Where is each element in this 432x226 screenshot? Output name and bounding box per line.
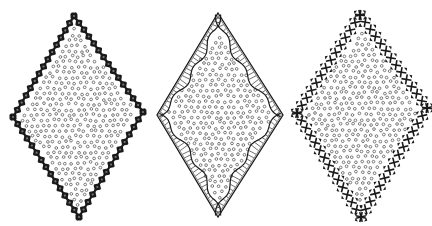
fill-dot (95, 163, 98, 166)
bead-highlight (34, 80, 36, 82)
bead-highlight (73, 209, 75, 211)
fill-dot (89, 173, 92, 176)
stitch-triangle (416, 132, 419, 136)
fill-dot (257, 94, 260, 97)
cross-stitch (417, 100, 427, 102)
fill-dot (96, 140, 99, 143)
fill-dot (360, 119, 363, 122)
fill-dot (195, 159, 198, 162)
fill-dot (34, 97, 37, 100)
hatch-mark (202, 43, 207, 46)
fill-dot (78, 109, 81, 112)
fill-dot (73, 198, 76, 201)
fill-dot (220, 74, 223, 77)
fill-dot (227, 73, 230, 76)
fill-dot (75, 156, 78, 159)
fill-dot (90, 108, 93, 111)
stitch-triangle (305, 106, 308, 110)
fill-dot (79, 123, 82, 126)
fill-dot (225, 57, 228, 60)
fill-dot (404, 128, 407, 131)
fill-dot (349, 76, 352, 79)
fill-dot (215, 52, 218, 55)
cross-stitch (365, 29, 375, 31)
fill-dot (96, 67, 99, 70)
fill-dot (177, 96, 180, 99)
fill-dot (90, 141, 93, 144)
fill-dot (366, 130, 369, 133)
fill-dot (208, 159, 211, 162)
fill-dot (242, 112, 245, 115)
stitch-triangle (397, 143, 400, 147)
fill-dot (217, 78, 220, 81)
fill-dot (32, 118, 35, 121)
fill-dot (257, 106, 260, 109)
fill-dot (204, 78, 207, 81)
fill-dot (49, 104, 52, 107)
fill-dot (87, 168, 90, 171)
fill-dot (180, 121, 183, 124)
fill-dot (73, 114, 76, 117)
fill-dot (308, 114, 311, 117)
fill-dot (328, 113, 331, 116)
fill-dot (230, 112, 233, 115)
fill-dot (187, 110, 190, 113)
fill-dot (211, 122, 214, 125)
fill-dot (221, 148, 224, 151)
fill-dot (23, 114, 26, 117)
fill-dot (195, 83, 198, 86)
stitch-triangle (365, 30, 368, 34)
fill-dot (73, 124, 76, 127)
fill-dot (221, 106, 224, 109)
fill-dot (367, 161, 370, 164)
fill-dot (339, 156, 342, 159)
fill-dot (357, 144, 360, 147)
hatch-mark (247, 159, 252, 162)
fill-dot (48, 135, 51, 138)
fill-dot (108, 77, 111, 80)
stitch-triangle (389, 46, 392, 50)
hatch-mark (231, 180, 238, 184)
bead-highlight (137, 104, 139, 106)
fill-dot (215, 158, 218, 161)
fill-dot (196, 94, 199, 97)
fill-dot (368, 86, 371, 89)
stitch-triangle (378, 174, 381, 178)
fill-dot (376, 123, 379, 126)
hatch-mark (206, 36, 208, 38)
fill-dot (122, 123, 125, 126)
fill-dot (394, 134, 397, 137)
bead-highlight (78, 22, 80, 24)
fill-dot (85, 72, 88, 75)
stitch-triangle (328, 153, 331, 157)
fill-dot (361, 171, 364, 174)
bead-highlight (128, 133, 130, 135)
stitch-triangle (301, 93, 304, 97)
fill-dot (208, 168, 211, 171)
fill-dot (70, 139, 73, 142)
stitch-triangle (368, 17, 371, 21)
stitch-triangle (395, 73, 398, 77)
fill-dot (99, 82, 102, 85)
hatch-mark (230, 39, 233, 41)
fill-dot (190, 85, 193, 88)
fill-dot (246, 84, 249, 87)
fill-dot (385, 86, 388, 89)
fill-dot (70, 44, 73, 47)
fill-dot (375, 156, 378, 159)
hatch-mark (206, 193, 208, 195)
fill-dot (40, 130, 43, 133)
fill-dot (77, 66, 80, 69)
fill-dot (33, 108, 36, 111)
fill-dot (358, 188, 361, 191)
fill-dot (345, 90, 348, 93)
fill-dot (84, 118, 87, 121)
fill-dot (80, 61, 83, 64)
fill-dot (95, 76, 98, 79)
fill-dot (325, 128, 328, 131)
fill-dot (79, 145, 82, 148)
hatch-mark (198, 50, 206, 54)
fill-dot (224, 153, 227, 156)
fill-dot (320, 114, 323, 117)
fill-dot (385, 140, 388, 143)
